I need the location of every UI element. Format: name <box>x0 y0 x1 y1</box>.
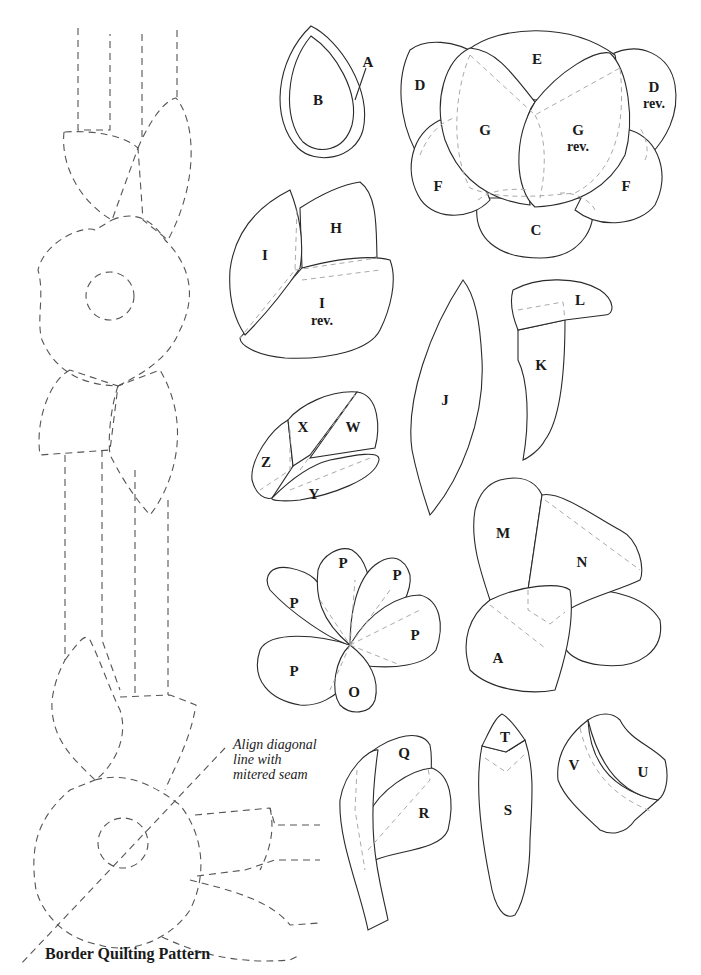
label-d-rev-suffix: rev. <box>643 96 665 111</box>
label-o: O <box>348 684 360 700</box>
label-t: T <box>500 729 510 745</box>
label-j: J <box>441 392 449 408</box>
label-i-rev: I <box>319 295 325 311</box>
label-l: L <box>575 292 585 308</box>
alignment-note: Align diagonal line with mitered seam <box>233 737 317 782</box>
label-i: I <box>262 247 268 263</box>
piece-group-teardrop: A B <box>280 26 374 158</box>
piece-group-petal-flower: P P P P P O <box>257 549 440 712</box>
label-p-1: P <box>338 555 347 571</box>
label-w: W <box>346 419 361 435</box>
piece-group-large-flower: E D D rev. G G rev. F F C <box>401 31 676 258</box>
label-u: U <box>638 764 649 780</box>
label-d-rev: D <box>649 79 660 95</box>
label-e: E <box>532 51 542 67</box>
label-i-rev-suffix: rev. <box>311 313 333 328</box>
label-g-rev-suffix: rev. <box>567 139 589 154</box>
label-p-3: P <box>289 595 298 611</box>
label-g: G <box>479 122 491 138</box>
label-g-rev: G <box>572 122 584 138</box>
label-m: M <box>496 525 510 541</box>
label-a: A <box>363 54 374 70</box>
piece-group-leaf-j: J <box>411 280 482 515</box>
piece-group-bud-st: T S <box>479 714 532 916</box>
pattern-title: Border Quilting Pattern <box>45 945 210 963</box>
label-r: R <box>419 805 430 821</box>
label-p-5: P <box>289 663 298 679</box>
label-n: N <box>577 554 588 570</box>
piece-group-stem-qr: Q R <box>340 736 451 930</box>
label-y: Y <box>309 486 320 502</box>
label-a-2: A <box>493 650 504 666</box>
piece-group-flower-mna: M N A <box>466 478 661 692</box>
label-b: B <box>313 92 323 108</box>
piece-group-stem-kl: L K <box>512 280 612 460</box>
piece-group-bud-hi: I H I rev. <box>230 182 394 358</box>
label-s: S <box>504 802 512 818</box>
label-x: X <box>298 419 309 435</box>
label-c: C <box>531 222 542 238</box>
label-v: V <box>569 757 580 773</box>
label-f-right: F <box>621 178 630 194</box>
piece-group-bud-uv: V U <box>558 714 667 833</box>
pattern-canvas: A B E D D rev. G G rev. F F <box>0 0 701 975</box>
label-f-left: F <box>433 178 442 194</box>
label-k: K <box>535 357 547 373</box>
label-q: Q <box>398 745 410 761</box>
label-p-2: P <box>392 567 401 583</box>
label-p-4: P <box>410 627 419 643</box>
label-h: H <box>330 220 342 236</box>
label-d: D <box>415 77 426 93</box>
piece-group-bud-wxyz: X W Z Y <box>252 392 379 502</box>
label-z: Z <box>261 454 271 470</box>
